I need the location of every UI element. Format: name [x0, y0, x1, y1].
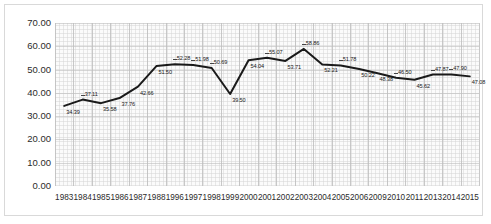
x-tick-label: 2015 — [461, 193, 479, 202]
data-label: 48.38 — [380, 76, 394, 82]
label-leader-line — [431, 70, 435, 71]
x-axis: 1983198419851986198719881996199719981999… — [55, 193, 479, 209]
label-leader-line — [302, 44, 306, 45]
data-label: 37.76 — [122, 101, 136, 107]
chart-frame: 70.0060.0050.0040.0030.0020.0010.000.00 … — [4, 4, 483, 216]
data-label: 54.04 — [251, 63, 265, 69]
data-label: 52.28 — [177, 55, 191, 61]
y-tick-label: 10.00 — [5, 158, 51, 168]
data-label: 39.50 — [232, 97, 246, 103]
line-series — [55, 23, 479, 186]
y-tick-label: 70.00 — [5, 18, 51, 28]
data-label: 47.90 — [453, 65, 467, 71]
label-leader-line — [339, 60, 343, 61]
series-polyline — [64, 49, 470, 106]
data-label: 46.50 — [398, 69, 412, 75]
data-label: 51.98 — [195, 56, 209, 62]
x-tick-label: 2001 — [258, 193, 276, 202]
x-tick-label: 1987 — [129, 193, 147, 202]
plot-area: 34.3937.1135.5837.7642.6651.5052.2851.98… — [55, 23, 479, 186]
data-label: 53.71 — [287, 64, 301, 70]
data-label: 37.11 — [85, 91, 98, 97]
y-tick-label: 30.00 — [5, 111, 51, 121]
x-tick-label: 2009 — [368, 193, 386, 202]
data-label: 51.50 — [158, 69, 172, 75]
x-tick-label: 1988 — [147, 193, 165, 202]
x-tick-label: 2003 — [295, 193, 313, 202]
x-tick-label: 2006 — [350, 193, 368, 202]
data-label: 47.87 — [435, 66, 449, 72]
data-label: 35.58 — [103, 106, 117, 112]
data-label: 50.22 — [361, 72, 375, 78]
x-tick-label: 2010 — [387, 193, 405, 202]
grid-line-vertical — [479, 23, 480, 186]
x-tick-label: 1985 — [92, 193, 110, 202]
x-tick-label: 1999 — [221, 193, 239, 202]
x-tick-label: 1983 — [55, 193, 73, 202]
x-tick-label: 2013 — [424, 193, 442, 202]
data-label: 52.21 — [324, 67, 338, 73]
label-leader-line — [81, 95, 85, 96]
label-leader-line — [210, 63, 214, 64]
x-tick-label: 1984 — [74, 193, 92, 202]
x-tick-label: 2011 — [406, 193, 424, 202]
label-leader-line — [449, 69, 453, 70]
x-tick-label: 2000 — [239, 193, 257, 202]
y-tick-label: 0.00 — [5, 181, 51, 191]
y-axis: 70.0060.0050.0040.0030.0020.0010.000.00 — [5, 5, 51, 217]
label-leader-line — [265, 53, 269, 54]
x-tick-label: 2002 — [276, 193, 294, 202]
label-leader-line — [394, 73, 398, 74]
data-label: 50.69 — [214, 59, 228, 65]
data-label: 34.39 — [66, 109, 80, 115]
x-tick-label: 1998 — [203, 193, 221, 202]
x-tick-label: 1997 — [184, 193, 202, 202]
data-label: 58.86 — [306, 40, 320, 46]
data-label: 45.62 — [416, 83, 430, 89]
x-tick-label: 2014 — [442, 193, 460, 202]
label-leader-line — [191, 60, 195, 61]
data-label: 42.66 — [140, 90, 154, 96]
y-tick-label: 40.00 — [5, 88, 51, 98]
x-tick-label: 1986 — [110, 193, 128, 202]
y-tick-label: 60.00 — [5, 41, 51, 51]
data-label: 47.08 — [472, 79, 486, 85]
x-tick-label: 2004 — [313, 193, 331, 202]
y-tick-label: 20.00 — [5, 134, 51, 144]
data-label: 51.78 — [343, 56, 357, 62]
y-tick-label: 50.00 — [5, 65, 51, 75]
label-leader-line — [173, 59, 177, 60]
x-tick-label: 1996 — [166, 193, 184, 202]
data-label: 55.07 — [269, 49, 283, 55]
x-tick-label: 2005 — [332, 193, 350, 202]
